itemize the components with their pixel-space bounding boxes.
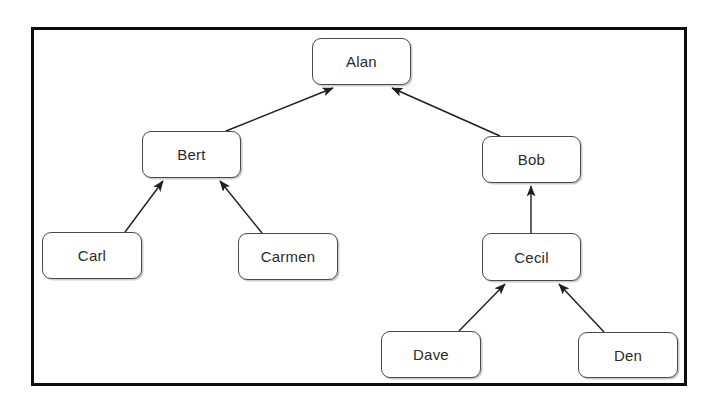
node-cecil-label: Cecil [514,250,548,265]
node-dave[interactable]: Dave [381,331,481,378]
node-carmen[interactable]: Carmen [238,233,338,280]
node-carmen-label: Carmen [261,249,316,264]
node-den[interactable]: Den [578,332,678,378]
node-carl-label: Carl [78,248,106,263]
node-cecil[interactable]: Cecil [482,233,581,281]
node-carl[interactable]: Carl [42,232,142,279]
node-alan-label: Alan [346,54,377,69]
diagram-canvas: Alan Bert Bob Carl Carmen Cecil Dave Den [0,0,718,406]
node-bert-label: Bert [177,147,205,162]
node-bob[interactable]: Bob [482,136,581,183]
node-alan[interactable]: Alan [312,38,411,85]
node-bert[interactable]: Bert [142,131,241,178]
node-den-label: Den [614,348,642,363]
node-bob-label: Bob [518,152,545,167]
node-dave-label: Dave [413,347,449,362]
